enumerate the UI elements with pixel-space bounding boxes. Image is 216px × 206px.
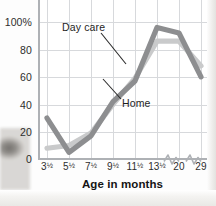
annotation-leader-lines: [0, 0, 216, 206]
page-edge-decoration: [207, 0, 216, 190]
x-axis-title: Age in months: [38, 178, 207, 190]
leader-line-day-care: [101, 33, 126, 64]
leader-line-home: [103, 79, 121, 99]
chart-figure: 100% 80 60 40 20 0 3½5½7½9½11½13½2029 Da…: [0, 0, 216, 206]
annotation-label-home: Home: [122, 97, 151, 109]
page-bottom-band: [0, 190, 216, 206]
annotation-label-day-care: Day care: [62, 21, 105, 33]
